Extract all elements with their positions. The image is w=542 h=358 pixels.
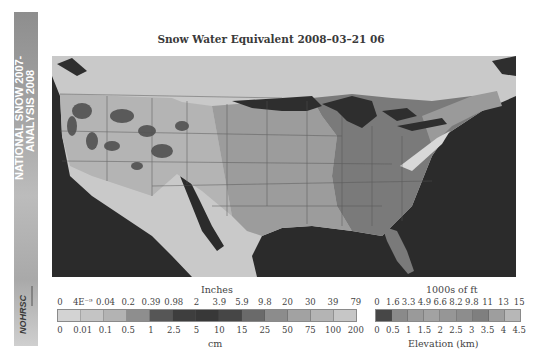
km-tick: 2	[437, 325, 442, 335]
snow-water-equivalent-map	[52, 56, 516, 277]
swe-swatch	[104, 310, 127, 321]
swe-swatch	[334, 310, 356, 321]
elev-swatch	[440, 310, 456, 321]
inch-tick: 2	[194, 297, 199, 307]
elev-swatch	[505, 310, 520, 321]
cm-tick: 1	[148, 325, 153, 335]
swe-inch-ticks: 0 4E⁻⁹ 0.04 0.2 0.39 0.98 2 3.9 5.9 9.8 …	[60, 297, 356, 309]
swe-color-bar	[57, 309, 357, 322]
inch-tick: 20	[282, 297, 293, 307]
swe-swatch	[81, 310, 104, 321]
inch-tick: 39	[328, 297, 339, 307]
inch-tick: 4E⁻⁹	[73, 297, 93, 307]
km-tick: 1	[406, 325, 411, 335]
side-title-line2: ANALYSIS 2008	[24, 70, 36, 152]
km-tick: 4.5	[512, 325, 526, 335]
ft-tick: 15	[514, 297, 525, 307]
map-title: Snow Water Equivalent 2008–03–21 06	[0, 33, 542, 45]
cm-tick: 0.01	[73, 325, 92, 335]
elev-ft-label: 1000s of ft	[426, 284, 478, 295]
elev-ft-ticks: 0 1.6 3.3 4.9 6.6 8.2 9.8 11 13 15	[377, 297, 521, 309]
swe-cm-label: cm	[208, 338, 222, 349]
cm-tick: 0.1	[99, 325, 113, 335]
elev-swatch	[473, 310, 489, 321]
swe-swatch	[219, 310, 242, 321]
ft-tick: 0	[374, 297, 379, 307]
ft-tick: 3.3	[402, 297, 416, 307]
km-tick: 2.5	[449, 325, 463, 335]
swe-swatch	[265, 310, 288, 321]
swe-inches-label: Inches	[201, 284, 233, 295]
km-tick: 3.5	[481, 325, 495, 335]
cm-tick: 200	[348, 325, 364, 335]
inch-tick: 5.9	[235, 297, 249, 307]
elev-swatch	[457, 310, 473, 321]
inch-tick: 79	[350, 297, 361, 307]
elev-swatch	[392, 310, 408, 321]
swe-swatch	[58, 310, 81, 321]
km-tick: 0.5	[386, 325, 400, 335]
cm-tick: 0	[57, 325, 62, 335]
swe-swatch	[127, 310, 150, 321]
inch-tick: 9.8	[258, 297, 272, 307]
side-banner: NATIONAL SNOW 2007- ANALYSIS 2008 NOHRSC	[14, 12, 38, 346]
logo-text: NOHRSC	[18, 294, 28, 334]
inch-tick: 0.2	[121, 297, 135, 307]
swe-swatch	[196, 310, 219, 321]
km-tick: 0	[374, 325, 379, 335]
swe-swatch	[242, 310, 265, 321]
cm-tick: 25	[259, 325, 270, 335]
cm-tick: 50	[282, 325, 293, 335]
swe-cm-ticks: 0 0.01 0.1 0.5 1 2.5 5 10 15 25 50 75 10…	[60, 325, 356, 337]
nohrsc-logo: NOHRSC	[16, 284, 36, 340]
elev-swatch	[376, 310, 392, 321]
km-tick: 3	[469, 325, 474, 335]
cm-tick: 10	[214, 325, 225, 335]
inch-tick: 0.39	[142, 297, 161, 307]
elev-km-label: Elevation (km)	[408, 338, 479, 349]
km-tick: 1.5	[418, 325, 432, 335]
cm-tick: 2.5	[167, 325, 181, 335]
elev-km-ticks: 0 0.5 1 1.5 2 2.5 3 3.5 4 4.5	[377, 325, 521, 337]
inch-tick: 0	[57, 297, 62, 307]
ft-tick: 6.6	[433, 297, 447, 307]
ft-tick: 11	[482, 297, 493, 307]
swe-swatch	[311, 310, 334, 321]
swe-swatch	[173, 310, 196, 321]
inch-tick: 0.98	[164, 297, 183, 307]
side-banner-title: NATIONAL SNOW 2007- ANALYSIS 2008	[12, 22, 40, 182]
ft-tick: 9.8	[465, 297, 479, 307]
inch-tick: 30	[305, 297, 316, 307]
ft-tick: 13	[498, 297, 509, 307]
cm-tick: 5	[194, 325, 199, 335]
cm-tick: 15	[237, 325, 248, 335]
ft-tick: 1.6	[386, 297, 400, 307]
swe-swatch	[150, 310, 173, 321]
inch-tick: 3.9	[213, 297, 227, 307]
elev-swatch	[489, 310, 505, 321]
cm-tick: 75	[305, 325, 316, 335]
cm-tick: 100	[325, 325, 341, 335]
elev-swatch	[408, 310, 424, 321]
cm-tick: 0.5	[121, 325, 135, 335]
inch-tick: 0.04	[96, 297, 115, 307]
ft-tick: 4.9	[418, 297, 432, 307]
elev-color-bar	[375, 309, 521, 322]
elev-swatch	[424, 310, 440, 321]
km-tick: 4	[501, 325, 506, 335]
ft-tick: 8.2	[449, 297, 463, 307]
swe-swatch	[288, 310, 311, 321]
